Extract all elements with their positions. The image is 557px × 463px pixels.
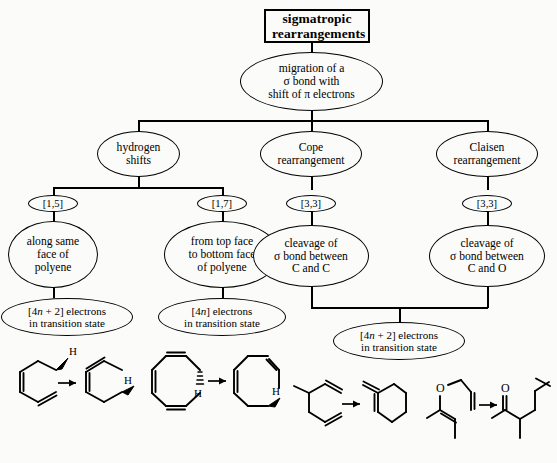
shift-label-claisen-3-3-text: [3,3] <box>463 198 511 210</box>
node-cope-rearrangement: Cope rearrangement <box>260 131 362 177</box>
h-label-product: H <box>124 374 132 386</box>
connector-merge-to-electrons <box>399 307 401 323</box>
node-shift-label-1-7: [1,7] <box>197 195 247 212</box>
node-shift-label-claisen-3-3: [3,3] <box>462 195 512 212</box>
node-claisen-rearrangement: Claisen rearrangement <box>436 131 538 177</box>
node-electrons-4n-plus-2-left: [4n + 2] electrons in transition state <box>1 298 133 336</box>
definition-line-3: shift of π electrons <box>268 88 355 101</box>
node-electrons-4n-right: [4n] electrons in transition state <box>158 298 286 336</box>
diagram-canvas: sigmatropic rearrangements migration of … <box>0 0 557 463</box>
node-cleavage-c-c: cleavage of σ bond between C and C <box>253 225 369 287</box>
antarafacial-line-3: of polyene <box>197 261 246 274</box>
connector-cleavage-cc-down <box>311 287 313 308</box>
oxygen-label-reactant: O <box>436 381 445 395</box>
carbonyl-label-product: O <box>501 381 510 395</box>
cleavage-co-line-2: σ bond between <box>450 250 524 263</box>
connector-cleavage-co-down <box>487 287 489 308</box>
electrons-shared-line-1: [4n + 2] electrons <box>360 329 438 341</box>
electrons-right-line-2: in transition state <box>184 317 260 329</box>
cope-line-1: Cope <box>299 141 323 154</box>
reaction-arrow-2 <box>208 378 226 385</box>
scheme-cope <box>292 374 410 434</box>
hydrogen-sub-bus <box>53 187 223 189</box>
claisen-line-2: rearrangement <box>454 154 521 167</box>
connector-bus-to-cope <box>311 120 313 131</box>
title-node: sigmatropic rearrangements <box>264 9 370 43</box>
shift-label-1-5-text: [1,5] <box>29 198 77 210</box>
node-suprafacial: along same face of polyene <box>8 221 98 288</box>
node-shift-label-cope-3-3: [3,3] <box>286 195 336 212</box>
title-line-1: sigmatropic <box>282 11 351 26</box>
electrons-left-line-2: in transition state <box>29 317 105 329</box>
h-label-reactant: H <box>69 345 77 357</box>
h-label-product-2: H <box>272 385 280 397</box>
connector-bus-to-claisen <box>487 120 489 131</box>
reaction-arrow-1 <box>58 380 76 387</box>
suprafacial-line-2: face of <box>37 248 69 261</box>
scheme-claisen: O O <box>425 372 553 454</box>
scheme-hydrogen-shift-1-7: H H <box>148 348 288 416</box>
wedge-bond-reactant <box>56 358 68 370</box>
node-hydrogen-shifts: hydrogen shifts <box>97 131 180 177</box>
scheme-hydrogen-shift-1-5: H H <box>14 342 154 412</box>
claisen-line-1: Claisen <box>470 141 505 154</box>
connector-cope-to-33 <box>311 176 313 190</box>
definition-line-1: migration of a <box>279 62 345 75</box>
hydrogen-shifts-line-1: hydrogen <box>117 141 161 154</box>
hashed-bond-reactant <box>197 372 204 384</box>
node-shift-label-1-5: [1,5] <box>28 195 78 212</box>
antarafacial-line-2: to bottom face <box>189 248 256 261</box>
cleavage-co-line-3: C and O <box>468 262 507 275</box>
cleavage-cc-line-2: σ bond between <box>274 250 348 263</box>
cope-line-2: rearrangement <box>278 154 345 167</box>
suprafacial-line-1: along same <box>27 235 79 248</box>
antarafacial-line-1: from top face <box>191 235 253 248</box>
definition-line-2: σ bond with <box>284 75 340 88</box>
cleavage-cc-line-3: C and C <box>292 262 330 275</box>
connector-suprafacial-to-electrons <box>53 287 55 298</box>
electrons-shared-line-2: in transition state <box>361 341 437 353</box>
connector-33-to-cleavage-cc <box>311 211 313 225</box>
wedge-bond-product-2 <box>268 398 280 407</box>
h-label-reactant-2: H <box>194 387 202 399</box>
wedge-bond-product <box>122 386 134 395</box>
suprafacial-line-3: polyene <box>35 261 72 274</box>
title-line-2: rearrangements <box>272 26 365 41</box>
main-branch-bus <box>138 120 488 122</box>
cleavage-co-line-1: cleavage of <box>460 237 513 250</box>
connector-claisen-to-33 <box>487 176 489 190</box>
reaction-arrow-4 <box>479 402 497 409</box>
electrons-left-line-1: [4n + 2] electrons <box>28 305 106 317</box>
hydrogen-shifts-line-2: shifts <box>126 154 151 167</box>
node-cleavage-c-o: cleavage of σ bond between C and O <box>429 225 545 287</box>
shift-label-cope-3-3-text: [3,3] <box>287 198 335 210</box>
definition-node: migration of a σ bond with shift of π el… <box>240 52 383 111</box>
cleavage-cc-line-1: cleavage of <box>284 237 337 250</box>
reaction-arrow-3 <box>342 401 360 408</box>
shift-label-1-7-text: [1,7] <box>198 198 246 210</box>
connector-33-to-cleavage-co <box>487 211 489 225</box>
node-electrons-shared: [4n + 2] electrons in transition state <box>333 322 465 360</box>
connector-bus-to-hydrogen <box>138 120 140 131</box>
connector-antarafacial-to-electrons <box>222 287 224 298</box>
electrons-right-line-1: [4n] electrons <box>192 305 253 317</box>
